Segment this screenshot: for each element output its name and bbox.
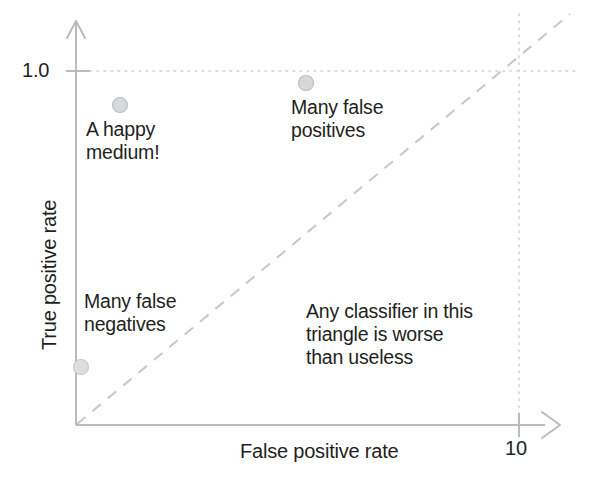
annotation-many-false-positives: Many false positives xyxy=(291,96,383,142)
annotation-many-false-negatives: Many false negatives xyxy=(84,290,176,336)
x-tick-label-10: 10 xyxy=(505,437,527,460)
data-point-marker xyxy=(113,98,128,113)
y-axis-title: True positive rate xyxy=(38,200,61,350)
annotation-a-happy-medium: A happy medium! xyxy=(86,118,159,164)
data-point-marker xyxy=(74,360,89,375)
data-point-marker xyxy=(299,76,314,91)
plot-canvas xyxy=(0,0,595,485)
annotation-worse-than-useless: Any classifier in this triangle is worse… xyxy=(306,300,473,369)
y-tick-label-1.0: 1.0 xyxy=(22,59,49,82)
roc-tradeoff-figure: 1.0 10 True positive rate False positive… xyxy=(0,0,595,485)
x-axis-title: False positive rate xyxy=(240,440,399,463)
